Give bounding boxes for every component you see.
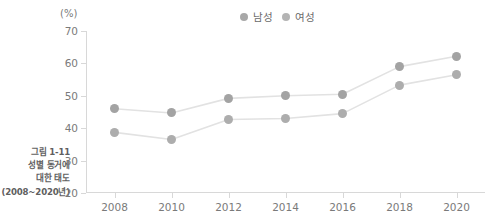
data-point-marker[interactable] <box>224 94 233 103</box>
data-point-marker[interactable] <box>110 128 119 137</box>
data-point-marker[interactable] <box>281 114 290 123</box>
y-axis-label: 60 <box>65 57 78 69</box>
x-axis-tick <box>457 193 458 198</box>
caption-period: (2008~2020년) <box>0 186 70 199</box>
legend-label: 여성 <box>295 9 315 24</box>
data-point-marker[interactable] <box>338 90 347 99</box>
data-point-marker[interactable] <box>224 115 233 124</box>
x-axis-tick <box>115 193 116 198</box>
x-axis-label: 2016 <box>329 201 356 213</box>
y-axis-label: 20 <box>65 187 78 199</box>
y-axis-unit-label: (%) <box>60 8 77 19</box>
legend-item-female[interactable]: 여성 <box>282 9 315 24</box>
chart-legend: 남성여성 <box>240 9 315 24</box>
legend-item-male[interactable]: 남성 <box>240 9 273 24</box>
x-axis-label: 2014 <box>272 201 299 213</box>
x-axis-tick <box>229 193 230 198</box>
legend-marker-icon <box>282 13 290 21</box>
plot-area: 203040506070 200820102012201420162018202… <box>86 31 485 193</box>
y-axis-label: 40 <box>65 122 78 134</box>
caption-figure-number: 그림 1-11 <box>0 146 70 159</box>
x-axis-tick <box>172 193 173 198</box>
data-point-marker[interactable] <box>167 135 176 144</box>
legend-label: 남성 <box>253 9 273 24</box>
y-axis-label: 30 <box>65 155 78 167</box>
series-lines <box>86 31 485 193</box>
legend-marker-icon <box>240 13 248 21</box>
x-axis-tick <box>286 193 287 198</box>
x-axis-label: 2018 <box>386 201 413 213</box>
y-axis-tick <box>81 193 86 194</box>
data-point-marker[interactable] <box>395 81 404 90</box>
figure-caption: 그림 1-11 성별 동거에 대한 태도 (2008~2020년) <box>0 146 70 199</box>
x-axis-label: 2012 <box>215 201 242 213</box>
y-axis-label: 70 <box>65 25 78 37</box>
x-axis-label: 2008 <box>101 201 128 213</box>
y-axis-label: 50 <box>65 90 78 102</box>
x-axis-tick <box>400 193 401 198</box>
x-axis-label: 2020 <box>443 201 470 213</box>
caption-title-line-1: 성별 동거에 <box>0 159 70 172</box>
series-line-female <box>115 75 457 140</box>
x-axis-tick <box>343 193 344 198</box>
x-axis-label: 2010 <box>158 201 185 213</box>
data-point-marker[interactable] <box>452 52 461 61</box>
caption-title-line-2: 대한 태도 <box>0 172 70 185</box>
figure-container: 그림 1-11 성별 동거에 대한 태도 (2008~2020년) (%) 남성… <box>0 0 500 219</box>
